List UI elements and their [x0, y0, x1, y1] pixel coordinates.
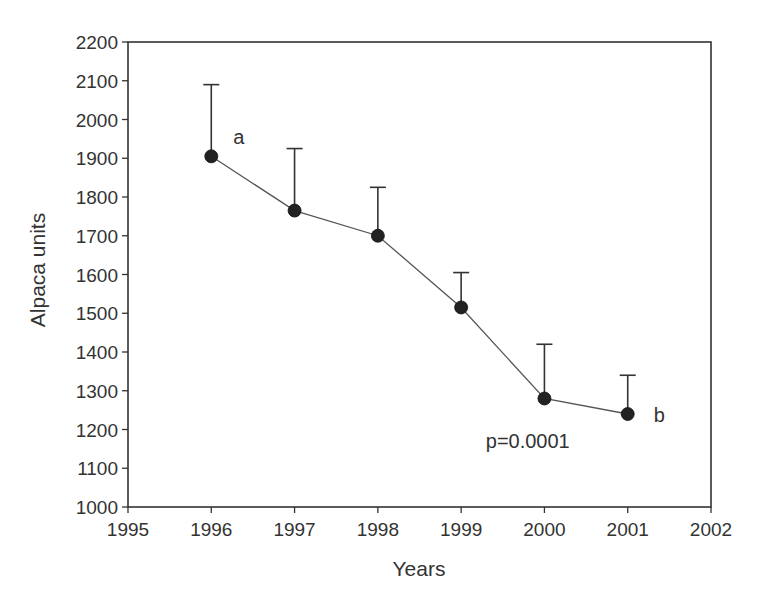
data-point-marker — [621, 408, 634, 421]
p-value-label: p=0.0001 — [486, 430, 570, 452]
significance-letter: a — [233, 126, 245, 148]
y-tick-label: 1300 — [76, 381, 118, 402]
error-bars — [203, 85, 635, 414]
x-tick-label: 2002 — [690, 519, 732, 540]
data-point-marker — [538, 392, 551, 405]
data-point-marker — [205, 150, 218, 163]
x-tick-label: 1999 — [440, 519, 482, 540]
data-line — [211, 156, 627, 414]
data-markers — [205, 150, 634, 421]
y-tick-label: 1000 — [76, 497, 118, 518]
x-tick-label: 2000 — [523, 519, 565, 540]
y-tick-label: 2000 — [76, 110, 118, 131]
significance-letter: b — [654, 404, 665, 426]
plot-frame — [128, 42, 711, 507]
y-tick-label: 2200 — [76, 32, 118, 53]
y-tick-label: 1900 — [76, 148, 118, 169]
annotations: abp=0.0001 — [233, 126, 665, 452]
series-line — [211, 156, 627, 414]
y-tick-label: 2100 — [76, 71, 118, 92]
x-tick-label: 1998 — [357, 519, 399, 540]
x-tick-label: 1995 — [107, 519, 149, 540]
y-tick-label: 1100 — [77, 458, 118, 479]
y-tick-label: 1800 — [76, 187, 118, 208]
data-point-marker — [455, 301, 468, 314]
y-tick-label: 1600 — [76, 265, 118, 286]
data-point-marker — [288, 204, 301, 217]
x-tick-label: 2001 — [607, 519, 649, 540]
y-tick-label: 1200 — [76, 420, 118, 441]
x-axis: 19951996199719981999200020012002 — [107, 507, 732, 540]
data-point-marker — [371, 229, 384, 242]
line-chart: 1000110012001300140015001600170018001900… — [0, 0, 761, 603]
y-axis-title: Alpaca units — [26, 213, 49, 327]
x-tick-label: 1997 — [273, 519, 315, 540]
y-tick-label: 1700 — [76, 226, 118, 247]
y-tick-label: 1500 — [76, 303, 118, 324]
x-axis-title: Years — [393, 557, 446, 580]
plot-border — [128, 42, 711, 507]
y-tick-label: 1400 — [76, 342, 118, 363]
x-tick-label: 1996 — [190, 519, 232, 540]
y-axis: 1000110012001300140015001600170018001900… — [76, 32, 128, 518]
